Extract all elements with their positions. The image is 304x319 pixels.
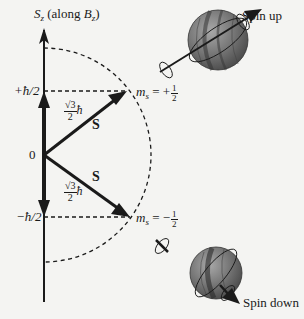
- spin-vector-upper: [44, 91, 127, 155]
- axis-paren-close: ): [95, 6, 99, 21]
- upper-vector-magnitude: √32ħ: [64, 100, 83, 122]
- spin-vector-diagram: [0, 0, 304, 319]
- frac-denominator: 2: [172, 220, 177, 229]
- equals-sign: =: [149, 84, 163, 99]
- axis-label: Sz (along Bz): [34, 7, 100, 23]
- axis-paren-open: (along: [44, 6, 84, 21]
- ms-plus-label: ms = +12: [136, 84, 179, 103]
- ms-symbol: m: [136, 210, 145, 225]
- sz-component-up-arrow: [38, 91, 50, 155]
- spin-up-label: Spin up: [242, 9, 282, 22]
- tick-label-plus: +ħ/2: [14, 84, 39, 97]
- sign: −: [163, 210, 170, 225]
- tick-label-minus: −ħ/2: [16, 210, 41, 223]
- magnitude-denominator: 2: [68, 112, 73, 123]
- magnitude-numerator: √3: [64, 181, 77, 193]
- spin-down-sphere: [153, 236, 243, 304]
- magnitude-denominator: 2: [68, 193, 73, 204]
- dashed-semicircle: [44, 48, 151, 262]
- lower-vector-label: S: [92, 170, 100, 184]
- sign: +: [163, 84, 170, 99]
- frac-denominator: 2: [172, 94, 177, 103]
- upper-vector-label: S: [92, 118, 100, 132]
- magnitude-numerator: √3: [64, 100, 77, 112]
- lower-vector-magnitude: √32ħ: [64, 181, 83, 203]
- spin-vector-lower: [44, 155, 130, 217]
- sz-component-down-arrow: [38, 155, 50, 217]
- ms-symbol: m: [136, 84, 145, 99]
- equals-sign: =: [149, 210, 163, 225]
- hbar-symbol: ħ: [77, 184, 83, 198]
- spin-down-label: Spin down: [243, 296, 299, 309]
- axis-field-symbol: B: [84, 6, 92, 21]
- hbar-symbol: ħ: [77, 103, 83, 117]
- ms-minus-label: ms = −12: [136, 210, 179, 229]
- tick-label-zero: 0: [29, 148, 36, 161]
